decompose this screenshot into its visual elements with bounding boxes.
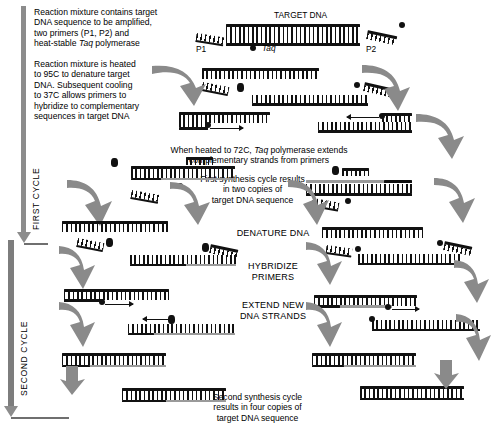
dna-strand-final-4b (360, 398, 464, 402)
process-arrow-3 (412, 112, 472, 162)
synthesis-direction-arrow-3 (105, 304, 133, 305)
dna-strand-template (131, 166, 235, 177)
cycle2-strand-right-top (322, 227, 423, 238)
step-denature-dna: DENATURE DNA (234, 228, 312, 239)
dna-strand-final-2a (122, 388, 226, 399)
pcr-diagram: FIRST CYCLE SECOND CYCLE Reaction mixtur… (0, 0, 499, 432)
taq-polymerase-icon-2 (250, 45, 256, 51)
denatured-strand-top (202, 68, 319, 79)
process-arrow-9 (302, 240, 350, 288)
free-primer-2 (130, 190, 159, 204)
dna-strand-top (226, 24, 360, 35)
second-cycle-label: SECOND CYCLE (19, 292, 29, 396)
taq-polymerase-icon-17 (385, 304, 391, 310)
process-arrow-2 (358, 63, 420, 115)
first-cycle-end-rule (24, 243, 48, 245)
synthesis-direction-arrow-4 (143, 319, 169, 320)
taq-polymerase-icon-3 (237, 83, 244, 92)
process-arrow-10 (450, 258, 496, 306)
second-cycle-bar (8, 240, 14, 408)
taq-italic-2: Taq (254, 145, 268, 155)
synthesis-direction-arrow-5 (392, 309, 419, 310)
process-arrow-8 (55, 244, 103, 292)
primer-p2 (366, 30, 397, 45)
second-cycle-arrowhead (4, 406, 18, 417)
taq-polymerase-icon-13 (355, 246, 361, 252)
process-arrow-6 (284, 178, 336, 228)
first-cycle-arrowhead (17, 232, 31, 243)
extending-primer-left (179, 121, 208, 130)
cycle2-extending-mid (128, 324, 235, 335)
process-arrow-1 (150, 62, 212, 110)
process-arrow-14 (60, 366, 90, 396)
synthesis-direction-arrow-2 (347, 117, 379, 118)
cycle2-strand-right-bottom (358, 254, 462, 265)
cycle2-strand-left-top (62, 221, 168, 232)
primer-p1-label: P1 (196, 44, 206, 54)
taq-polymerase-icon-14 (437, 240, 443, 246)
taq-polymerase-icon-12 (202, 243, 209, 252)
cycle2-strand-left-bottom (130, 255, 236, 266)
dna-strand-bottom (226, 35, 360, 46)
step-extend-new-strands: EXTEND NEW DNA STRANDS (234, 300, 312, 322)
first-cycle-label: FIRST CYCLE (31, 140, 41, 230)
dna-strand-final-3a (312, 353, 416, 364)
process-arrow-5 (166, 180, 218, 228)
process-arrow-11 (55, 300, 103, 350)
process-arrow-13 (452, 312, 498, 364)
extending-strand-right (318, 122, 412, 133)
dna-strand-final-3b (312, 365, 416, 369)
taq-polymerase-icon-6 (379, 113, 385, 119)
taq-polymerase-icon-18 (369, 316, 375, 322)
process-arrow-12 (302, 300, 350, 350)
process-arrow-15 (434, 360, 464, 390)
taq-polymerase-icon-9 (332, 166, 339, 175)
taq-italic: Taq (79, 38, 93, 48)
taq-polymerase-icon-8 (111, 158, 118, 167)
process-arrow-7 (430, 176, 482, 226)
step-hybridize-primers: HYBRIDIZE PRIMERS (234, 261, 312, 283)
taq-polymerase-icon-1 (399, 22, 405, 28)
dna-strand-final-1a (62, 353, 166, 364)
taq-label: Taq (262, 43, 276, 53)
taq-polymerase-icon-10 (345, 198, 351, 204)
second-cycle-end-rule (11, 417, 69, 419)
intro-caption: Reaction mixture contains target DNA seq… (34, 7, 199, 49)
extending-primer-right (382, 113, 412, 122)
free-primer-1 (186, 157, 213, 165)
denatured-strand-bottom (252, 95, 368, 106)
dna-strand-final-2b (122, 400, 226, 404)
taq-polymerase-icon-11 (106, 238, 113, 247)
target-dna-label: TARGET DNA (274, 10, 327, 20)
free-primer-3 (342, 168, 369, 176)
first-cycle-bar (21, 6, 26, 234)
primer-p2-label: P2 (366, 44, 376, 54)
synthesis-direction-arrow-1 (210, 128, 243, 129)
